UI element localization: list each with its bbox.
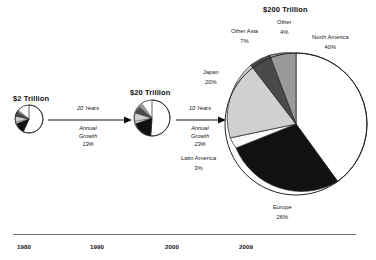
transition-1-growth-line2: Growth [50, 132, 126, 140]
stage-2000-title: $20 Trillion [130, 88, 170, 97]
figure-canvas: $2 Trillion 20 Years Annual Growth 13% $… [0, 0, 376, 260]
pie-label-latin-america: Latin America 3% [181, 154, 216, 173]
pie-label-japan-name: Japan [203, 69, 219, 75]
axis-tick-2009: 2009 [239, 243, 253, 250]
transition-1-duration: 20 Years [50, 104, 126, 112]
pie-label-other-asia-pct: 7% [231, 37, 258, 47]
pie-label-north-america-name: North America [312, 34, 349, 40]
pie-label-other-asia-name: Other Asia [231, 28, 258, 34]
pie-label-latin-america-pct: 3% [181, 164, 216, 174]
transition-1-growth-line1: Annual [50, 124, 126, 132]
stage-2009-title: $200 Trillion [263, 5, 308, 14]
pie-label-japan-pct: 20% [203, 78, 219, 88]
pie-label-europe-name: Europe [273, 204, 292, 210]
stage-1980-title: $2 Trillion [13, 94, 49, 103]
axis-tick-2000: 2000 [165, 243, 179, 250]
pie-label-other-name: Other [277, 19, 292, 25]
pie-label-other: Other 4% [277, 18, 292, 37]
pie-2000 [133, 99, 171, 137]
pie-label-north-america-pct: 40% [312, 43, 349, 53]
transition-2-growth-line1: Annual [178, 124, 222, 132]
pie-label-other-asia: Other Asia 7% [231, 27, 258, 46]
pie-label-japan: Japan 20% [203, 68, 219, 87]
pie-2009 [224, 52, 368, 196]
transition-2-growth-line2: Growth [178, 132, 222, 140]
transition-2-duration: 10 Years [178, 104, 222, 112]
axis-tick-1990: 1990 [90, 243, 104, 250]
pie-label-latin-america-name: Latin America [181, 155, 216, 161]
pie-1980 [14, 104, 44, 134]
pie-label-north-america: North America 40% [312, 33, 349, 52]
timeline-axis [13, 234, 356, 235]
transition-1-growth-rate: 13% [50, 140, 126, 148]
pie-label-europe: Europe 26% [273, 203, 292, 222]
transition-2-growth-rate: 23% [178, 140, 222, 148]
pie-label-other-pct: 4% [277, 28, 292, 38]
pie-label-europe-pct: 26% [273, 213, 292, 223]
axis-tick-1980: 1980 [17, 243, 31, 250]
